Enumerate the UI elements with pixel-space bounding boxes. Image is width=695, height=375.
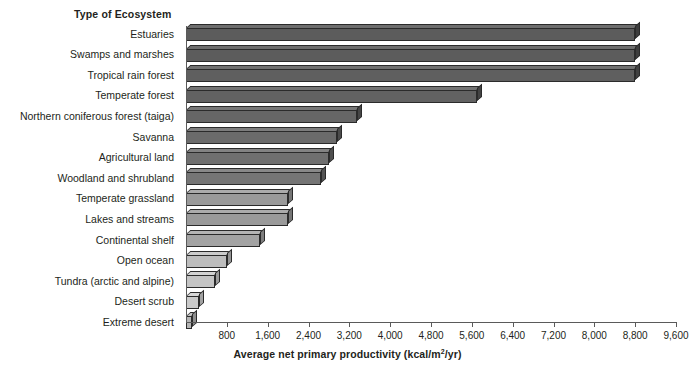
bar-front-face [186, 255, 227, 268]
bar-side-face [215, 269, 220, 286]
x-tick-mark [676, 322, 677, 327]
x-tick-label: 8,000 [582, 330, 607, 341]
bar [186, 110, 362, 123]
category-label: Extreme desert [103, 317, 174, 328]
bar-top-face [186, 127, 341, 131]
y-axis-line [186, 26, 187, 323]
x-axis-title: Average net primary productivity (kcal/m… [0, 348, 695, 360]
bar-front-face [186, 110, 357, 123]
bar-front-face [186, 296, 199, 309]
bar-top-face [186, 168, 326, 172]
x-tick-label: 4,800 [418, 330, 443, 341]
category-axis-title: Type of Ecosystem [74, 8, 171, 20]
bar-front-face [186, 152, 329, 165]
x-tick-label: 1,600 [255, 330, 280, 341]
bar-front-face [186, 234, 260, 247]
category-label: Temperate forest [95, 90, 174, 101]
x-tick-mark [472, 322, 473, 327]
bar [186, 28, 640, 41]
bar [186, 213, 293, 226]
x-tick-label: 6,400 [500, 330, 525, 341]
category-label: Savanna [133, 132, 174, 143]
category-label: Open ocean [117, 255, 174, 266]
category-label: Estuaries [130, 29, 174, 40]
bar-front-face [186, 131, 337, 144]
bar-side-face [227, 248, 232, 265]
x-tick-mark [309, 322, 310, 327]
x-axis-title-tail: /yr) [445, 348, 462, 360]
category-label: Agricultural land [99, 152, 174, 163]
bar-side-face [321, 166, 326, 183]
x-tick-mark [390, 322, 391, 327]
x-tick-mark [431, 322, 432, 327]
bar-front-face [186, 49, 635, 62]
bar-front-face [186, 172, 321, 185]
plot-area [186, 26, 676, 324]
bar-side-face [635, 42, 640, 59]
bar-side-face [357, 104, 362, 121]
bar [186, 234, 265, 247]
bar-side-face [288, 207, 293, 224]
bar-front-face [186, 275, 215, 288]
bar [186, 49, 640, 62]
bar-side-face [337, 125, 342, 142]
bar-top-face [186, 24, 640, 28]
bar-front-face [186, 90, 477, 103]
category-label: Northern coniferous forest (taiga) [20, 111, 174, 122]
bar [186, 69, 640, 82]
bar [186, 296, 204, 309]
bar [186, 193, 293, 206]
bar-side-face [199, 290, 204, 307]
bar-side-face [635, 22, 640, 39]
x-tick-label: 3,200 [337, 330, 362, 341]
x-tick-label: 5,600 [459, 330, 484, 341]
bar-side-face [635, 63, 640, 80]
bar-top-face [186, 148, 334, 152]
bar [186, 275, 220, 288]
x-tick-mark [349, 322, 350, 327]
category-label: Swamps and marshes [70, 49, 174, 60]
category-label: Continental shelf [96, 235, 174, 246]
x-tick-mark [594, 322, 595, 327]
bar-side-face [329, 145, 334, 162]
bar [186, 152, 334, 165]
bar [186, 255, 232, 268]
x-tick-label: 800 [218, 330, 235, 341]
x-tick-label: 4,000 [378, 330, 403, 341]
category-label: Woodland and shrubland [57, 173, 174, 184]
bar-top-face [186, 189, 293, 193]
bar-top-face [186, 45, 640, 49]
bar [186, 172, 326, 185]
x-tick-label: 7,200 [541, 330, 566, 341]
bar-top-face [186, 86, 482, 90]
bar-side-face [260, 228, 265, 245]
x-tick-mark [513, 322, 514, 327]
productivity-bar-chart: Type of Ecosystem EstuariesSwamps and ma… [0, 0, 695, 375]
x-tick-mark [268, 322, 269, 327]
category-label: Desert scrub [114, 296, 174, 307]
x-tick-mark [635, 322, 636, 327]
bar-top-face [186, 209, 293, 213]
category-label: Lakes and streams [85, 214, 174, 225]
bar [186, 131, 342, 144]
bar-front-face [186, 69, 635, 82]
bar-top-face [186, 65, 640, 69]
x-tick-label: 2,400 [296, 330, 321, 341]
bar-front-face [186, 28, 635, 41]
category-label: Temperate grassland [76, 193, 174, 204]
x-tick-mark [227, 322, 228, 327]
x-tick-label: 8,800 [623, 330, 648, 341]
category-label: Tropical rain forest [87, 70, 174, 81]
x-axis-title-main: Average net primary productivity (kcal/m [233, 348, 440, 360]
bar-front-face [186, 193, 288, 206]
bar [186, 90, 482, 103]
x-tick-label: 9,600 [663, 330, 688, 341]
category-label: Tundra (arctic and alpine) [55, 276, 174, 287]
bar-side-face [477, 84, 482, 101]
bar-top-face [186, 106, 362, 110]
bar-top-face [186, 230, 265, 234]
bar-side-face [288, 187, 293, 204]
bar-front-face [186, 213, 288, 226]
x-tick-mark [554, 322, 555, 327]
bar-top-face [186, 251, 232, 255]
